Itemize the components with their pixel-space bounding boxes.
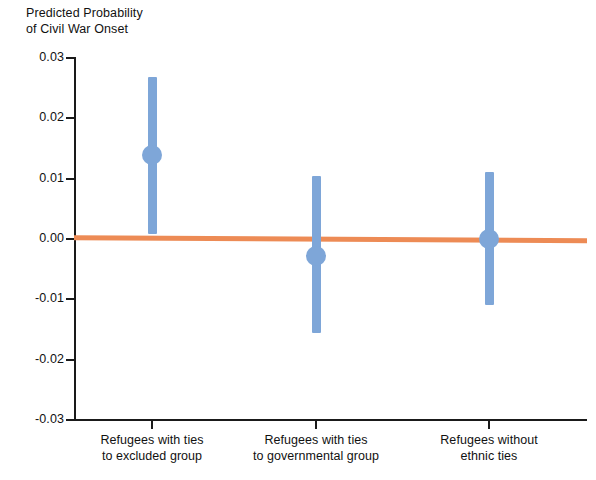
y-axis-tick-label: -0.01 <box>2 292 64 305</box>
estimate-point-marker <box>479 229 499 249</box>
y-axis-tick <box>66 117 74 119</box>
x-axis-category-label: Refugees without ethnic ties <box>394 432 584 464</box>
x-axis-tick <box>488 421 490 429</box>
y-axis-tick-label-wrap: -0.02 <box>0 353 64 366</box>
y-axis-tick <box>66 238 74 240</box>
y-axis-tick <box>66 57 74 59</box>
y-axis-tick <box>66 178 74 180</box>
y-axis-tick-label: 0.01 <box>2 172 64 185</box>
x-axis-tick <box>151 421 153 429</box>
y-axis-tick <box>66 419 74 421</box>
y-axis-tick-label: 0.02 <box>2 111 64 124</box>
x-axis-tick <box>315 421 317 429</box>
y-axis-tick-label-wrap: -0.03 <box>0 413 64 426</box>
estimate-point-marker <box>306 246 326 266</box>
y-axis-tick-label-wrap: -0.01 <box>0 292 64 305</box>
chart-figure: Predicted Probability of Civil War Onset… <box>0 0 596 480</box>
y-axis-tick-label-wrap: 0.03 <box>0 51 64 64</box>
y-axis-tick-label-wrap: 0.01 <box>0 172 64 185</box>
x-axis-category-label: Refugees with ties to governmental group <box>221 432 411 464</box>
x-axis-category-label: Refugees with ties to excluded group <box>57 432 247 464</box>
reference-line-layer <box>74 0 587 480</box>
y-axis-title: Predicted Probability of Civil War Onset <box>26 6 143 37</box>
y-axis-tick-label: -0.02 <box>2 353 64 366</box>
y-axis-tick-label: -0.03 <box>2 413 64 426</box>
y-axis-tick-label-wrap: 0.02 <box>0 111 64 124</box>
y-axis-tick <box>66 359 74 361</box>
estimate-point-marker <box>142 145 162 165</box>
y-axis-tick <box>66 298 74 300</box>
y-axis-tick-label: 0.00 <box>2 232 64 245</box>
zero-reference-line <box>74 238 587 241</box>
y-axis-tick-label-wrap: 0.00 <box>0 232 64 245</box>
y-axis-line <box>74 57 76 421</box>
y-axis-tick-label: 0.03 <box>2 51 64 64</box>
